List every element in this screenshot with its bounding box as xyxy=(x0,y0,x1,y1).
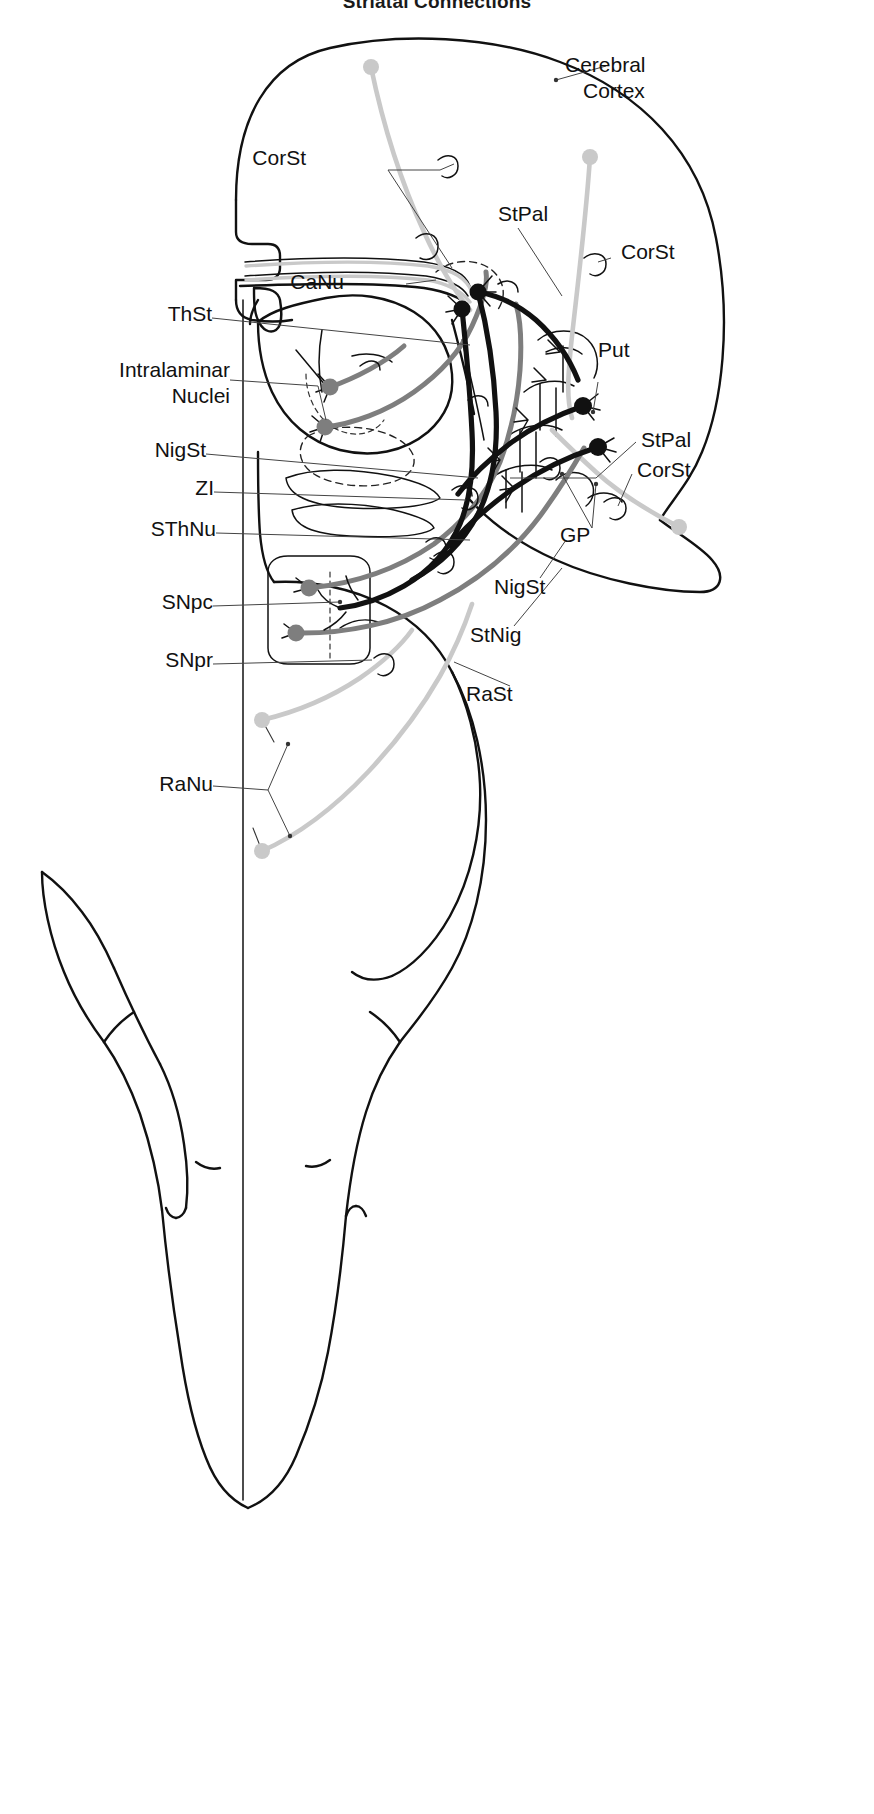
substantia-nigra-outline xyxy=(268,556,378,664)
soma-cortex-3 xyxy=(671,519,687,535)
label-ranu: RaNu xyxy=(93,772,213,797)
label-nigst-left: NigSt xyxy=(86,438,206,463)
thalamus-outline xyxy=(258,295,452,536)
soma-snpc-1 xyxy=(301,580,318,597)
label-zi: ZI xyxy=(94,476,214,501)
label-stnig: StNig xyxy=(470,623,521,648)
label-put: Put xyxy=(598,338,630,363)
label-intralaminar-line2: Nuclei xyxy=(40,384,230,409)
label-stpal-top: StPal xyxy=(498,202,548,227)
pathway-corticostriatal xyxy=(246,67,679,527)
pathway-striatonigral xyxy=(318,292,496,630)
pathway-raphestriatal xyxy=(253,604,472,851)
label-sthnu: SThNu xyxy=(76,517,216,542)
label-nigst-right: NigSt xyxy=(494,575,545,600)
label-rast: RaSt xyxy=(466,682,513,707)
soma-cortex-2 xyxy=(582,149,598,165)
soma-thalamus-2 xyxy=(317,419,334,436)
label-corst-right-top: CorSt xyxy=(621,240,675,265)
soma-thalamus-1 xyxy=(322,379,339,396)
label-corst-top: CorSt xyxy=(186,146,306,171)
soma-canu-2 xyxy=(454,301,471,318)
label-gp: GP xyxy=(560,523,590,548)
soma-canu-1 xyxy=(470,284,487,301)
soma-put-1 xyxy=(574,397,592,415)
brain-section-illustration xyxy=(0,0,874,1814)
label-cerebral-cortex-line1: Cerebral xyxy=(565,53,646,78)
label-snpr: SNpr xyxy=(93,648,213,673)
soma-cortex-1 xyxy=(363,59,379,75)
soma-put-2 xyxy=(589,438,607,456)
figure-canvas: Striatal Connections xyxy=(0,0,874,1814)
label-intralaminar-line1: Intralaminar xyxy=(40,358,230,383)
label-thst: ThSt xyxy=(92,302,212,327)
soma-raphe-1 xyxy=(254,712,270,728)
label-canu: CaNu xyxy=(224,270,344,295)
label-cerebral-cortex-line2: Cortex xyxy=(583,79,645,104)
label-snpc: SNpc xyxy=(93,590,213,615)
label-corst-right-low: CorSt xyxy=(637,458,691,483)
label-stpal-right: StPal xyxy=(641,428,691,453)
soma-raphe-2 xyxy=(254,843,270,859)
soma-snpc-2 xyxy=(288,625,305,642)
